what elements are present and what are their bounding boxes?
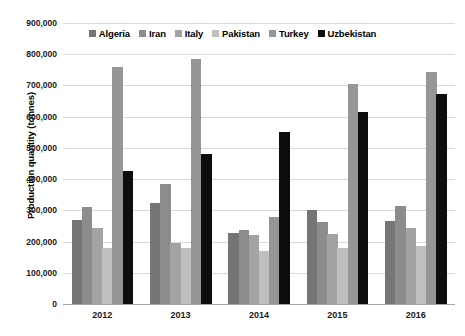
bar [191,59,202,304]
plot-area [63,23,455,304]
bar [416,246,427,304]
y-tick-label: 100,000 [0,268,57,278]
bar-group [220,23,298,304]
bar [112,67,123,304]
bar [269,217,280,304]
y-tick-label: 200,000 [0,237,57,247]
bar [239,230,250,304]
bar [317,222,328,304]
bar-group [377,23,455,304]
bar-group [298,23,376,304]
bar [279,132,290,304]
bar [259,251,270,304]
y-tick-label: 900,000 [0,18,57,28]
bar [201,154,212,304]
bar-group [63,23,141,304]
bar-chart: Production quantity (tonnes) 0100,000200… [0,0,465,336]
y-tick-label: 400,000 [0,174,57,184]
bar [426,72,437,304]
bar [228,233,239,304]
bar [337,248,348,304]
x-tick-label: 2016 [377,310,455,320]
x-tick-label: 2012 [63,310,141,320]
bar [181,248,192,304]
bar [395,206,406,304]
bar [123,171,134,304]
y-tick-label: 800,000 [0,49,57,59]
bar [436,94,447,304]
x-tick-label: 2014 [220,310,298,320]
y-tick-label: 500,000 [0,143,57,153]
bar [385,221,396,304]
bar [160,184,171,304]
bar [150,203,161,304]
bar-group [141,23,219,304]
bar [92,228,103,304]
bar [406,228,417,304]
bar [72,220,83,304]
bar [307,210,318,304]
bar [348,84,359,304]
x-tick-label: 2013 [141,310,219,320]
bar [249,235,260,304]
bar [82,207,93,304]
x-tick-label: 2015 [298,310,376,320]
bar [102,248,113,304]
axis-baseline [63,304,455,305]
bar [170,243,181,304]
y-tick-label: 700,000 [0,80,57,90]
y-tick-label: 0 [0,299,57,309]
bar [358,112,369,304]
y-tick-label: 300,000 [0,205,57,215]
y-tick-label: 600,000 [0,112,57,122]
bar [327,234,338,304]
